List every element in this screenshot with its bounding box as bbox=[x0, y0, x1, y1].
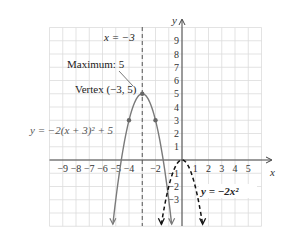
equation-base-label: y = −2x² bbox=[199, 185, 239, 197]
x-axis-label: x bbox=[269, 166, 275, 178]
x-tick-label: 4 bbox=[233, 163, 238, 174]
y-tick-label: 8 bbox=[174, 49, 179, 60]
y-tick-label: 1 bbox=[174, 141, 179, 152]
y-tick-label: 4 bbox=[174, 102, 179, 113]
maximum-label: Maximum: 5 bbox=[67, 58, 125, 70]
y-tick-label: 5 bbox=[174, 88, 179, 99]
point-marker bbox=[153, 118, 157, 122]
equation-shifted-label: y = −2(x + 3)² + 5 bbox=[29, 124, 114, 137]
parabola-graph: x y −9−8−7−6−5−4−212345 987654321−1−2−3 … bbox=[0, 0, 295, 244]
x-tick-label: −2 bbox=[150, 163, 161, 174]
x-tick-label: 2 bbox=[206, 163, 211, 174]
x-tick-label: −6 bbox=[97, 163, 108, 174]
x-tick-label: −8 bbox=[71, 163, 82, 174]
x-tick-label: 3 bbox=[219, 163, 224, 174]
y-tick-label: 6 bbox=[174, 75, 179, 86]
x-tick-label: −9 bbox=[57, 163, 68, 174]
point-marker bbox=[140, 92, 144, 96]
axis-of-symmetry-label: x = −3 bbox=[103, 31, 135, 43]
x-tick-label: 1 bbox=[193, 163, 198, 174]
y-tick-label: 3 bbox=[174, 115, 179, 126]
point-marker bbox=[127, 118, 131, 122]
vertex-label: Vertex (−3, 5) bbox=[75, 83, 137, 96]
y-tick-label: 9 bbox=[174, 35, 179, 46]
x-tick-label: 5 bbox=[246, 163, 251, 174]
y-tick-label: 2 bbox=[174, 128, 179, 139]
y-tick-label: −3 bbox=[168, 194, 179, 205]
x-tick-label: −7 bbox=[84, 163, 95, 174]
x-tick-labels: −9−8−7−6−5−4−212345 bbox=[57, 163, 250, 174]
y-tick-label: 7 bbox=[174, 62, 179, 73]
y-axis-label: y bbox=[171, 14, 177, 26]
x-tick-label: −4 bbox=[124, 163, 135, 174]
